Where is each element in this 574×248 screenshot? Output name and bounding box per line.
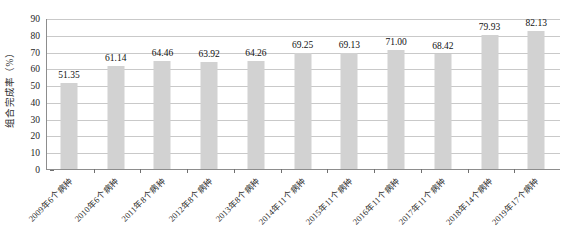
bar bbox=[341, 53, 358, 169]
bar-group: 51.35 bbox=[47, 18, 91, 169]
bar-value-label: 82.13 bbox=[526, 18, 547, 28]
bar-group: 69.25 bbox=[281, 18, 325, 169]
bar bbox=[294, 53, 311, 169]
plot-area: 51.3561.1464.4663.9264.2669.2569.1371.00… bbox=[46, 19, 560, 170]
bar bbox=[434, 54, 451, 169]
bar-value-label: 68.42 bbox=[432, 41, 453, 51]
x-axis-label: 2019年17个病种 bbox=[513, 172, 557, 248]
bar-group: 64.26 bbox=[234, 18, 278, 169]
bar-chart: 组合完成率（%） 9080706050403020100 51.3561.146… bbox=[0, 0, 574, 248]
bar-group: 64.46 bbox=[140, 18, 184, 169]
y-axis-tick-label: 50 bbox=[12, 81, 40, 91]
y-axis-tick-label: 0 bbox=[12, 165, 40, 175]
bar-value-label: 63.92 bbox=[198, 49, 219, 59]
bar-group: 68.42 bbox=[421, 18, 465, 169]
bar bbox=[528, 31, 545, 169]
bar bbox=[154, 61, 171, 169]
bar bbox=[481, 35, 498, 169]
y-axis-tick-label: 20 bbox=[12, 131, 40, 141]
bar-value-label: 64.26 bbox=[245, 48, 266, 58]
bar bbox=[201, 62, 218, 169]
bar-group: 71.00 bbox=[374, 18, 418, 169]
bar-value-label: 64.46 bbox=[152, 48, 173, 58]
bar-group: 69.13 bbox=[327, 18, 371, 169]
bar-value-label: 51.35 bbox=[58, 70, 79, 80]
bar-group: 63.92 bbox=[187, 18, 231, 169]
x-axis-tick-labels: 2009年6个病种2010年6个病种2011年8个病种2012年8个病种2013… bbox=[46, 172, 560, 248]
y-axis-tick bbox=[50, 170, 54, 171]
bar-group: 79.93 bbox=[468, 18, 512, 169]
bar-group: 61.14 bbox=[94, 18, 138, 169]
bar-value-label: 61.14 bbox=[105, 53, 126, 63]
bar bbox=[107, 66, 124, 169]
bar-value-label: 71.00 bbox=[385, 37, 406, 47]
y-axis-tick-label: 10 bbox=[12, 148, 40, 158]
y-axis-tick-label: 30 bbox=[12, 115, 40, 125]
y-axis-tick-label: 80 bbox=[12, 31, 40, 41]
bar bbox=[388, 50, 405, 169]
y-axis-tick-label: 90 bbox=[12, 14, 40, 24]
bar-value-label: 69.13 bbox=[339, 40, 360, 50]
bar-group: 82.13 bbox=[514, 18, 558, 169]
y-axis-tick-label: 60 bbox=[12, 64, 40, 74]
bar bbox=[247, 61, 264, 169]
bar-value-label: 69.25 bbox=[292, 40, 313, 50]
bar bbox=[61, 83, 78, 169]
y-axis-tick-label: 40 bbox=[12, 98, 40, 108]
y-axis-tick-label: 70 bbox=[12, 48, 40, 58]
bar-value-label: 79.93 bbox=[479, 22, 500, 32]
